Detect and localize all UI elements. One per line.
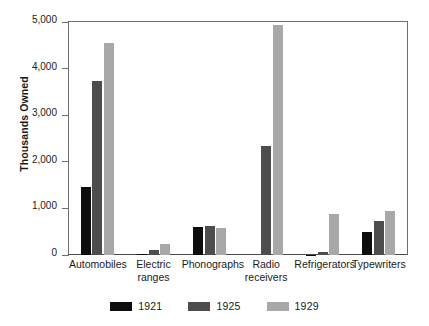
- bar: [385, 211, 395, 255]
- x-axis-label: Refrigerators: [294, 258, 350, 271]
- y-tick-label: 3,000: [32, 107, 57, 118]
- bar-group: [137, 22, 170, 255]
- bar-group: [362, 22, 395, 255]
- bar: [137, 254, 147, 255]
- y-tick-label: 4,000: [32, 61, 57, 72]
- legend-label: 1929: [295, 300, 319, 312]
- x-axis-label: Typewriters: [351, 258, 407, 271]
- bar-group: [306, 22, 339, 255]
- bars-layer: [69, 22, 407, 255]
- bar-group: [193, 22, 226, 255]
- bar: [362, 232, 372, 255]
- legend-item[interactable]: 1921: [110, 300, 162, 312]
- x-axis-label: Automobiles: [69, 258, 125, 271]
- bar: [273, 25, 283, 255]
- bar-group: [81, 22, 114, 255]
- bar: [216, 228, 226, 255]
- legend-label: 1925: [216, 300, 240, 312]
- x-axis-label: Radio receivers: [238, 258, 294, 284]
- x-axis-label: Electric ranges: [125, 258, 181, 284]
- bar: [160, 244, 170, 255]
- bar: [92, 81, 102, 255]
- legend-swatch: [267, 302, 289, 311]
- legend-swatch: [110, 302, 132, 311]
- y-tick-label: 0: [51, 247, 57, 258]
- y-tick-label: 1,000: [32, 200, 57, 211]
- chart-legend: 192119251929: [0, 300, 429, 312]
- bar: [81, 187, 91, 255]
- legend-item[interactable]: 1929: [267, 300, 319, 312]
- legend-label: 1921: [138, 300, 162, 312]
- bar: [104, 43, 114, 255]
- y-axis-title: Thousands Owned: [18, 44, 30, 204]
- legend-swatch: [188, 302, 210, 311]
- y-tick-label: 2,000: [32, 154, 57, 165]
- bar-group: [250, 22, 283, 255]
- bar: [149, 250, 159, 255]
- bar: [193, 227, 203, 255]
- legend-item[interactable]: 1925: [188, 300, 240, 312]
- bar: [329, 214, 339, 255]
- bar: [205, 226, 215, 255]
- x-axis-labels: AutomobilesElectric rangesPhonographsRad…: [69, 258, 407, 298]
- bar: [261, 146, 271, 255]
- x-axis-label: Phonographs: [182, 258, 238, 271]
- bar-chart: Thousands Owned 01,0002,0003,0004,0005,0…: [0, 0, 429, 326]
- bar: [318, 252, 328, 255]
- y-tick-label: 5,000: [32, 14, 57, 25]
- bar: [374, 221, 384, 255]
